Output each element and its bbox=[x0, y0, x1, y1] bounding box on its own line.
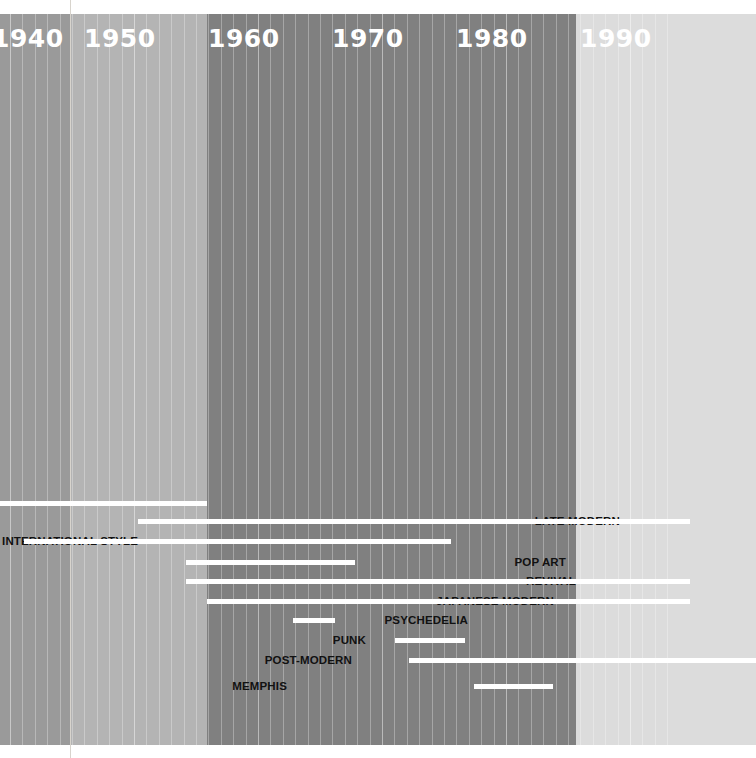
movement-row: POP ART bbox=[0, 552, 756, 572]
movement-bar bbox=[186, 579, 690, 584]
movement-bar bbox=[293, 618, 335, 623]
movement-row: POST-MODERN bbox=[0, 650, 756, 670]
movement-bar bbox=[409, 658, 756, 663]
movement-bar bbox=[207, 599, 690, 604]
movement-rows: LATE MODERNSWISS INTERNATIONAL STYLEPOP … bbox=[0, 0, 756, 758]
timeline-infographic: 194019501960197019801990 LATE MODERNSWIS… bbox=[0, 0, 756, 758]
movement-bar bbox=[138, 519, 690, 524]
movement-row: REVIVAL bbox=[0, 571, 756, 591]
movement-label: PUNK bbox=[333, 630, 366, 650]
movement-bar bbox=[24, 539, 451, 544]
movement-row: MEMPHIS bbox=[0, 676, 756, 696]
movement-row: LATE MODERN bbox=[0, 511, 756, 531]
movement-bar bbox=[474, 684, 553, 689]
movement-row: SWISS INTERNATIONAL STYLE bbox=[0, 531, 756, 551]
movement-bar bbox=[0, 501, 207, 506]
movement-row: JAPANESE MODERN bbox=[0, 591, 756, 611]
movement-label: MEMPHIS bbox=[232, 676, 287, 696]
movement-bar bbox=[186, 560, 355, 565]
movement-bar bbox=[395, 638, 465, 643]
movement-row: PSYCHEDELIA bbox=[0, 610, 756, 630]
movement-label: PSYCHEDELIA bbox=[385, 610, 468, 630]
movement-label: POP ART bbox=[514, 552, 566, 572]
movement-row bbox=[0, 493, 756, 513]
movement-row: PUNK bbox=[0, 630, 756, 650]
movement-label: POST-MODERN bbox=[265, 650, 352, 670]
